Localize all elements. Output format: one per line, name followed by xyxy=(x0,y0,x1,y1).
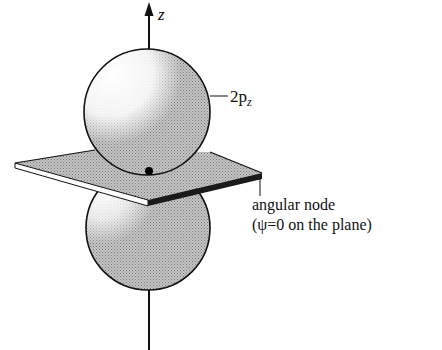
node-label-line1: angular node xyxy=(252,196,335,214)
node-label-line2: (ψ=0 on the plane) xyxy=(252,216,372,234)
orbital-subscript: z xyxy=(246,95,252,109)
orbital-diagram: z 2pz angular node (ψ=0 on the plane) xyxy=(0,0,442,350)
z-axis-arrow-icon xyxy=(145,2,154,16)
nucleus-dot xyxy=(145,167,153,175)
upper-lobe xyxy=(84,49,210,175)
z-axis-label: z xyxy=(157,5,165,24)
orbital-label: 2pz xyxy=(230,87,252,109)
